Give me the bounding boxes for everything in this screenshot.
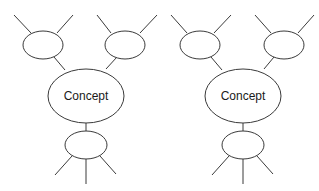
branch-line [57, 15, 73, 33]
connector-line [211, 57, 222, 70]
concept-map-canvas: Concept Concept [0, 0, 319, 191]
branch-line [14, 15, 31, 33]
concept-map-right: Concept [171, 15, 314, 184]
branch-line [97, 15, 111, 33]
subtopic-node [65, 131, 107, 159]
concept-label: Concept [64, 89, 109, 103]
branch-line [140, 15, 157, 33]
subtopic-node [264, 31, 304, 59]
branch-line [255, 15, 271, 33]
subtopic-node [222, 131, 264, 159]
subtopic-node [180, 31, 220, 59]
subtopic-node [105, 31, 145, 59]
branch-line [257, 156, 273, 174]
concept-label: Concept [221, 89, 266, 103]
branch-line [171, 15, 187, 33]
branch-line [55, 156, 72, 175]
connector-line [264, 57, 274, 69]
concept-map-left: Concept [14, 15, 157, 184]
connector-line [106, 57, 117, 69]
branch-line [100, 156, 116, 174]
connector-line [54, 57, 65, 70]
branch-line [298, 15, 314, 33]
branch-line [212, 156, 229, 175]
subtopic-node [23, 31, 63, 59]
branch-line [214, 15, 231, 33]
